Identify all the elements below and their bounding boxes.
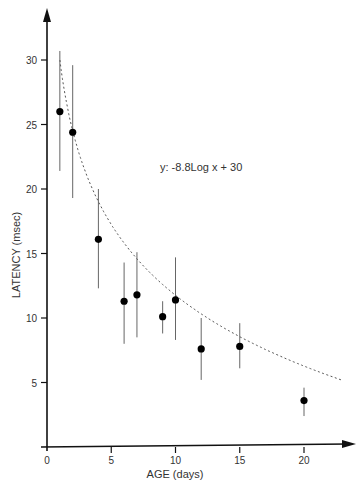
data-point: [172, 296, 179, 303]
y-tick-label: 25: [26, 120, 38, 131]
data-point: [300, 397, 307, 404]
x-tick-label: 20: [298, 455, 310, 466]
x-axis-arrow-icon: [342, 440, 356, 448]
x-axis-label: AGE (days): [147, 468, 204, 480]
y-axis-label: LATENCY (msec): [10, 212, 22, 298]
data-point: [69, 129, 76, 136]
x-tick-label: 5: [108, 455, 114, 466]
y-axis-arrow-icon: [43, 8, 51, 22]
x-tick-label: 10: [170, 455, 182, 466]
data-point: [159, 313, 166, 320]
axes: 5101520253005101520: [26, 8, 356, 466]
y-tick-label: 10: [26, 313, 38, 324]
y-tick-label: 30: [26, 55, 38, 66]
y-tick-label: 5: [31, 378, 37, 389]
x-tick-label: 0: [44, 455, 50, 466]
data-point: [198, 345, 205, 352]
y-tick-label: 15: [26, 249, 38, 260]
data-points: [56, 51, 307, 416]
x-axis-line: [41, 444, 348, 447]
data-point: [121, 298, 128, 305]
data-point: [236, 343, 243, 350]
latency-vs-age-chart: 5101520253005101520 y: -8.8Log x + 30 AG…: [0, 0, 360, 490]
x-tick-label: 15: [234, 455, 246, 466]
data-point: [95, 236, 102, 243]
data-point: [133, 291, 140, 298]
data-point: [56, 108, 63, 115]
equation-annotation: y: -8.8Log x + 30: [160, 161, 242, 173]
y-tick-label: 20: [26, 184, 38, 195]
